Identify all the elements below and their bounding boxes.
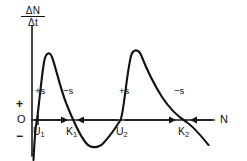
equilibrium-sub-u1: 1 bbox=[41, 130, 45, 139]
equilibrium-letter-u2: U bbox=[116, 125, 124, 137]
flow-arrow-u2-to-k1 bbox=[77, 117, 118, 124]
slope-annotation-3: +s bbox=[119, 86, 129, 96]
flow-arrow-right-to-k2 bbox=[190, 117, 212, 124]
flow-arrow-u2-to-k2 bbox=[125, 117, 176, 124]
equilibrium-label-u2: U2 bbox=[116, 126, 128, 137]
slope-annotation-1: +s bbox=[35, 86, 45, 96]
equilibrium-letter-k2: K bbox=[178, 125, 185, 137]
equilibrium-sub-u2: 2 bbox=[124, 130, 128, 139]
slope-annotation-2: −s bbox=[63, 86, 73, 96]
y-axis-numerator: ΔN bbox=[18, 5, 48, 16]
y-axis-denominator: Δt bbox=[18, 17, 48, 28]
growth-rate-figure: ΔN Δt + O − N U1 K1 U2 K2 +s −s +s −s bbox=[0, 0, 247, 161]
equilibrium-sub-k1: 1 bbox=[73, 130, 77, 139]
x-axis-label: N bbox=[220, 114, 228, 125]
flow-arrow-u1-to-k1 bbox=[39, 117, 68, 124]
curve-group bbox=[34, 50, 209, 160]
equilibrium-label-u1: U1 bbox=[33, 126, 45, 137]
growth-rate-curve bbox=[34, 50, 209, 160]
equilibrium-letter-u1: U bbox=[33, 125, 41, 137]
equilibrium-label-k2: K2 bbox=[178, 126, 189, 137]
y-axis-label: ΔN Δt bbox=[18, 5, 48, 28]
equilibrium-label-k1: K1 bbox=[66, 126, 77, 137]
y-axis-plus-marker: + bbox=[16, 98, 23, 110]
equilibrium-sub-k2: 2 bbox=[185, 130, 189, 139]
equilibrium-letter-k1: K bbox=[66, 125, 73, 137]
y-axis-minus-marker: − bbox=[16, 130, 23, 142]
y-axis-zero-marker: O bbox=[17, 114, 26, 125]
slope-annotation-4: −s bbox=[174, 86, 184, 96]
